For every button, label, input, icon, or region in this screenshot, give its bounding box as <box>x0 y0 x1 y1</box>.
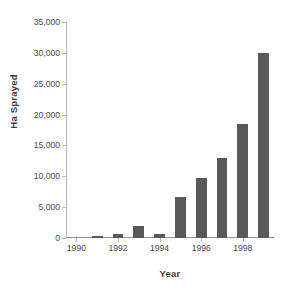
y-tick-label: 5,000 <box>18 202 60 212</box>
bar <box>196 178 207 238</box>
x-tick-mark <box>118 238 119 242</box>
bar <box>175 197 186 238</box>
y-tick-label: 10,000 <box>18 171 60 181</box>
y-tick-label: 25,000 <box>18 79 60 89</box>
y-tick-mark <box>62 238 66 239</box>
y-tick-label: 20,000 <box>18 110 60 120</box>
x-tick-mark <box>160 238 161 242</box>
bar-series <box>66 22 274 238</box>
x-tick-mark <box>201 238 202 242</box>
bar <box>133 226 144 238</box>
x-tick-label: 1994 <box>140 243 180 253</box>
y-tick-label: 35,000 <box>18 17 60 27</box>
x-tick-label: 1996 <box>181 243 221 253</box>
y-axis-tick-labels: 05,00010,00015,00020,00025,00030,00035,0… <box>18 22 60 238</box>
bar <box>92 236 103 238</box>
x-tick-mark <box>243 238 244 242</box>
x-axis-tick-labels: 19901992199419961998 <box>66 243 274 257</box>
bar <box>113 234 124 238</box>
x-axis-title: Year <box>66 268 274 279</box>
bar-chart: Ha Sprayed 05,00010,00015,00020,00025,00… <box>0 0 287 294</box>
y-axis-title: Ha Sprayed <box>8 62 19 142</box>
bar <box>258 53 269 238</box>
x-tick-mark <box>76 238 77 242</box>
plot-area <box>66 22 274 238</box>
y-tick-label: 0 <box>18 233 60 243</box>
x-tick-label: 1998 <box>223 243 263 253</box>
bar <box>237 124 248 238</box>
bar <box>217 158 228 238</box>
x-tick-label: 1990 <box>56 243 96 253</box>
y-tick-label: 15,000 <box>18 140 60 150</box>
x-tick-label: 1992 <box>98 243 138 253</box>
y-tick-label: 30,000 <box>18 48 60 58</box>
bar <box>154 234 165 238</box>
